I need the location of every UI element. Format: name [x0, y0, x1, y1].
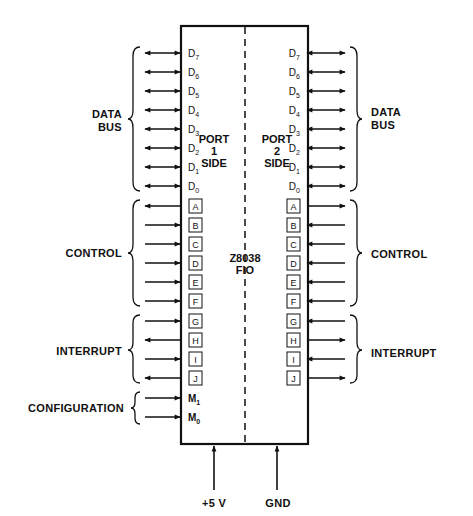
svg-text:SIDE: SIDE [201, 157, 227, 169]
pin-label: C [290, 240, 297, 250]
svg-text:1: 1 [211, 145, 217, 157]
pin-left-d: D [145, 256, 202, 270]
label-interrupt-right: INTERRUPT [371, 347, 437, 359]
pin-right-d2: D2 [289, 143, 345, 156]
pin-right-d0: D0 [289, 181, 345, 194]
pin-label: A [290, 202, 296, 212]
pin-left-c: C [145, 237, 202, 251]
pin-label: D6 [188, 67, 199, 80]
pin-left-d5: D5 [145, 86, 199, 99]
pin-label: J [193, 374, 198, 384]
brace-left-interrupt [128, 315, 140, 383]
pin-left-h: H [145, 333, 202, 347]
brace-left-control [128, 200, 140, 306]
pin-left-d3: D3 [145, 124, 199, 137]
svg-text:Z8038: Z8038 [229, 252, 260, 264]
vcc-label: +5 V [202, 497, 226, 509]
pin-left-d0: D0 [145, 181, 199, 194]
pin-left-a: A [145, 199, 202, 213]
pin-left-d7: D7 [145, 48, 199, 61]
pin-right-d6: D6 [289, 67, 345, 80]
z8038-fio-pinout-diagram: PORT 1 SIDE PORT 2 SIDE Z8038 FIO D7D6D5… [0, 0, 473, 516]
pin-label: D4 [289, 105, 300, 118]
pin-left-m1: M1 [145, 393, 200, 406]
pin-label: B [192, 221, 198, 231]
right-pin-group: D7D6D5D4D3D2D1D0ABCDEFGHIJ [287, 48, 345, 385]
pin-label: D [290, 259, 297, 269]
pin-label: D0 [188, 181, 199, 194]
brace-left-data-bus [128, 47, 140, 191]
pin-label: D2 [188, 143, 199, 156]
pin-right-d7: D7 [289, 48, 345, 61]
pin-label: D [192, 259, 199, 269]
pin-left-m0: M0 [145, 412, 200, 425]
left-braces [128, 47, 140, 424]
pin-right-j: J [287, 371, 345, 385]
left-pin-group: D7D6D5D4D3D2D1D0ABCDEFGHIJM1M0 [145, 48, 202, 425]
brace-right-control [350, 200, 362, 306]
pin-label: F [291, 297, 297, 307]
pin-left-g: G [145, 314, 202, 328]
pin-label: M1 [188, 393, 200, 406]
pin-left-i: I [145, 352, 202, 366]
right-group-labels: DATA BUS CONTROL INTERRUPT [371, 106, 437, 359]
brace-right-data-bus [350, 47, 362, 191]
pin-right-c: C [287, 237, 345, 251]
pin-right-d: D [287, 256, 345, 270]
gnd-label: GND [265, 497, 290, 509]
pin-right-d3: D3 [289, 124, 345, 137]
pin-label: D7 [188, 48, 199, 61]
port1-side-label: PORT 1 SIDE [199, 133, 230, 169]
pin-right-h: H [287, 333, 345, 347]
pin-left-e: E [145, 275, 202, 289]
pin-left-f: F [145, 294, 202, 308]
svg-text:BUS: BUS [98, 121, 122, 133]
brace-right-interrupt [350, 315, 362, 383]
pin-label: D1 [188, 162, 199, 175]
chip-name-label: Z8038 FIO [229, 252, 260, 276]
pin-label: E [192, 278, 198, 288]
pin-left-d6: D6 [145, 67, 199, 80]
svg-text:2: 2 [274, 145, 280, 157]
label-configuration-left: CONFIGURATION [28, 402, 124, 414]
pin-label: D0 [289, 181, 300, 194]
pin-label: D7 [289, 48, 300, 61]
pin-label: D5 [289, 86, 300, 99]
pin-label: E [290, 278, 296, 288]
pin-label: D3 [188, 124, 199, 137]
power-gnd: GND [265, 446, 290, 509]
right-braces [350, 47, 362, 383]
svg-text:FIO: FIO [236, 264, 255, 276]
pin-label: A [192, 202, 198, 212]
pin-label: D2 [289, 143, 300, 156]
svg-text:PORT: PORT [199, 133, 230, 145]
pin-label: J [291, 374, 296, 384]
pin-left-b: B [145, 218, 202, 232]
pin-label: M0 [188, 412, 200, 425]
pin-label: B [290, 221, 296, 231]
pin-label: H [290, 336, 297, 346]
pin-left-j: J [145, 371, 202, 385]
pin-label: D6 [289, 67, 300, 80]
power-vcc: +5 V [202, 446, 226, 509]
pin-label: C [192, 240, 199, 250]
pin-label: D4 [188, 105, 199, 118]
pin-right-d4: D4 [289, 105, 345, 118]
label-control-right: CONTROL [371, 248, 427, 260]
pin-label: G [192, 317, 199, 327]
brace-left-configuration [131, 392, 140, 424]
svg-text:SIDE: SIDE [264, 157, 290, 169]
pin-right-f: F [287, 294, 345, 308]
pin-label: I [292, 355, 295, 365]
pin-label: F [193, 297, 199, 307]
svg-text:BUS: BUS [371, 119, 395, 131]
pin-right-i: I [287, 352, 345, 366]
pin-left-d1: D1 [145, 162, 199, 175]
label-control-left: CONTROL [66, 247, 122, 259]
label-interrupt-left: INTERRUPT [56, 345, 122, 357]
pin-right-g: G [287, 314, 345, 328]
label-data-bus-left: DATA [92, 108, 122, 120]
label-data-bus-right: DATA [371, 106, 401, 118]
pin-left-d4: D4 [145, 105, 199, 118]
pin-right-d1: D1 [289, 162, 345, 175]
